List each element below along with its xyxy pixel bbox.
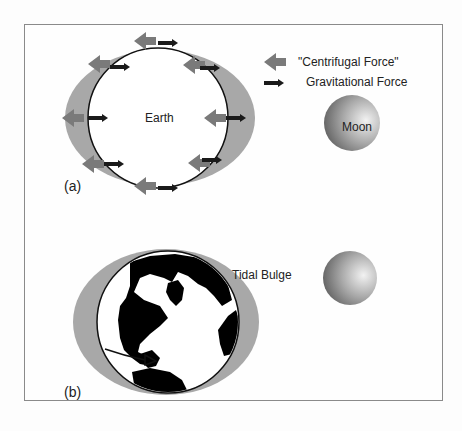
gravitational-legend-icon xyxy=(264,79,284,87)
centrifugal-legend-label: "Centrifugal Force" xyxy=(298,55,399,69)
moon-b xyxy=(323,251,377,305)
legend xyxy=(264,53,286,87)
panel-b-label: (b) xyxy=(64,384,81,400)
panel-a-label: (a) xyxy=(64,178,81,194)
gravitational-legend-label: Gravitational Force xyxy=(306,75,407,89)
moon-label: Moon xyxy=(342,120,372,134)
panel-b xyxy=(73,249,377,398)
earth-label: Earth xyxy=(145,111,174,125)
tidal-bulge-label: Tidal Bulge xyxy=(232,268,292,282)
centrifugal-legend-icon xyxy=(264,53,286,71)
